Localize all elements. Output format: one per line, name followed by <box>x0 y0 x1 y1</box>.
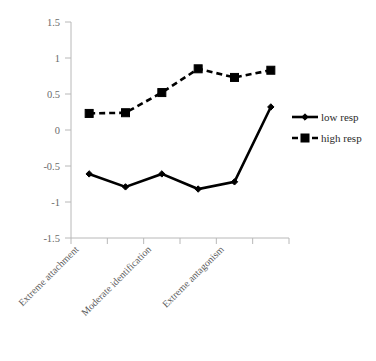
legend-marker <box>301 134 309 142</box>
legend-marker <box>302 114 308 120</box>
data-point-marker <box>158 89 166 97</box>
line-chart: 1.510.50-0.5-1-1.5 Extreme attachmentMod… <box>0 0 376 361</box>
x-axis-category-labels: Extreme attachmentModerate identificatio… <box>16 243 226 317</box>
y-tick-label: 0 <box>55 125 60 136</box>
legend-label: high resp <box>321 132 362 144</box>
data-point-marker <box>122 184 128 190</box>
data-point-marker <box>122 109 130 117</box>
y-tick-label: -0.5 <box>43 161 60 172</box>
y-axis-tick-labels: 1.510.50-0.5-1-1.5 <box>43 17 60 244</box>
series-high-resp <box>85 65 275 118</box>
x-category-label-group: Extreme antagonism <box>160 243 226 309</box>
data-point-marker <box>85 109 93 117</box>
legend-item-high-resp[interactable]: high resp <box>292 132 362 144</box>
legend-item-low-resp[interactable]: low resp <box>292 111 359 123</box>
series-line <box>89 107 271 189</box>
data-point-marker <box>231 73 239 81</box>
data-point-marker <box>86 171 92 177</box>
chart-legend: low resphigh resp <box>292 111 362 144</box>
plot-axes <box>71 22 289 238</box>
legend-label: low resp <box>321 111 359 123</box>
chart-container: 1.510.50-0.5-1-1.5 Extreme attachmentMod… <box>0 0 376 361</box>
data-point-marker <box>267 66 275 74</box>
x-category-label: Extreme antagonism <box>160 243 226 309</box>
x-category-label-group: Extreme attachment <box>16 243 81 308</box>
x-category-label: Extreme attachment <box>16 243 81 308</box>
y-tick-label: -1.5 <box>43 233 60 244</box>
y-axis-ticks <box>65 22 71 238</box>
y-tick-label: 0.5 <box>47 89 60 100</box>
series-low-resp <box>86 104 274 192</box>
y-tick-label: 1.5 <box>47 17 60 28</box>
x-category-label-group: Moderate identification <box>79 244 153 318</box>
series-layer <box>85 65 275 192</box>
y-tick-label: -1 <box>51 197 60 208</box>
series-line <box>89 69 271 114</box>
data-point-marker <box>194 65 202 73</box>
y-tick-label: 1 <box>55 53 60 64</box>
x-category-label: Moderate identification <box>79 244 153 318</box>
x-axis-ticks <box>71 238 289 244</box>
